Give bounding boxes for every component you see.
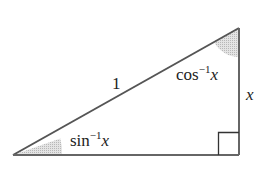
right-angle-marker — [219, 133, 240, 156]
angle-bottom-left-label: sin−1x — [70, 129, 110, 150]
angle-shade-top-right — [215, 28, 240, 57]
hypotenuse-label: 1 — [112, 74, 121, 93]
triangle-diagram: 1 cos−1x x sin−1x — [0, 0, 271, 176]
opposite-side-label: x — [245, 85, 254, 104]
angle-top-right-label: cos−1x — [176, 63, 218, 84]
hypotenuse-line — [13, 28, 239, 155]
